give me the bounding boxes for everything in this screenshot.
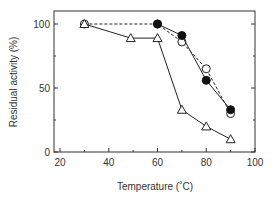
- series-group: [80, 20, 235, 143]
- filled-circle-marker: [154, 20, 162, 28]
- open-triangle-marker: [226, 135, 235, 143]
- line-chart: 050100 20406080100 Temperature (˚C) Resi…: [0, 0, 275, 199]
- series-filled-circle: [154, 20, 235, 114]
- open-triangle-marker: [202, 122, 211, 130]
- filled-circle-marker: [202, 76, 210, 84]
- open-circle-marker: [202, 65, 210, 73]
- y-axis: 050100: [33, 19, 255, 158]
- y-tick-label: 0: [44, 147, 50, 158]
- y-axis-title: Residual activity (%): [8, 37, 19, 128]
- x-tick-label: 40: [103, 157, 115, 168]
- x-tick-label: 80: [201, 157, 213, 168]
- y-tick-label: 100: [33, 19, 50, 30]
- series-open-triangle: [80, 20, 235, 143]
- x-tick-label: 60: [152, 157, 164, 168]
- open-triangle-marker: [177, 105, 186, 113]
- filled-circle-marker: [178, 32, 186, 40]
- x-axis-title: Temperature (˚C): [117, 181, 193, 192]
- open-triangle-marker: [153, 34, 162, 42]
- plot-frame: [54, 11, 255, 152]
- y-tick-label: 50: [39, 83, 51, 94]
- x-tick-label: 20: [54, 157, 66, 168]
- series-line: [158, 24, 231, 110]
- filled-circle-marker: [227, 106, 235, 114]
- x-axis: 20406080100: [54, 148, 263, 168]
- x-tick-label: 100: [247, 157, 264, 168]
